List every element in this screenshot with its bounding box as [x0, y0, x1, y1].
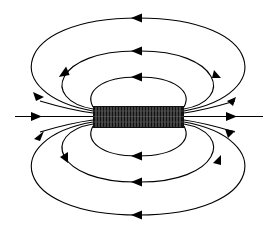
- arrow-icon: [131, 152, 142, 161]
- arrow-icon: [131, 73, 142, 82]
- field-loop-bottom-middle: [62, 124, 213, 182]
- arrow-icon: [131, 211, 142, 220]
- solenoid-field-diagram: [0, 0, 275, 234]
- arrow-icon: [57, 66, 69, 77]
- field-lines-top: [31, 18, 245, 113]
- field-loop-top-inner: [91, 77, 186, 107]
- arrow-icon: [34, 131, 44, 141]
- solenoid-coil: [93, 106, 184, 128]
- field-loop-bottom-inner: [91, 126, 186, 156]
- arrow-icon: [213, 155, 221, 165]
- axis-arrow-right: [226, 112, 237, 121]
- arrow-icon: [33, 92, 44, 101]
- axis-arrow-left: [31, 112, 42, 121]
- field-loop-top-middle: [62, 51, 213, 109]
- arrow-icon: [212, 70, 221, 78]
- arrow-icon: [131, 47, 142, 56]
- arrow-icon: [131, 178, 142, 187]
- arrow-icon: [225, 129, 235, 138]
- field-loop-top-outer: [31, 18, 245, 111]
- arrow-icon: [131, 14, 142, 23]
- field-loop-bottom-outer: [31, 122, 245, 215]
- arrow-icon: [60, 152, 68, 163]
- field-lines-bottom: [31, 120, 245, 215]
